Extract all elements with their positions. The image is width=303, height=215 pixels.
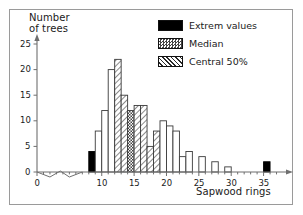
histogram-bar (166, 126, 172, 172)
x-tick-label: 20 (161, 178, 172, 188)
histogram-bar (95, 131, 101, 172)
histogram-bar (89, 152, 95, 172)
histogram-bar (212, 162, 218, 172)
histogram-bar (179, 157, 185, 172)
legend-swatch-median (158, 38, 183, 49)
histogram-bar (225, 167, 231, 172)
histogram-bar (199, 157, 205, 172)
y-tick-label: 0 (25, 167, 30, 177)
histogram-bar (108, 70, 114, 172)
legend-label-median: Median (189, 38, 224, 49)
y-tick-label: 20 (20, 64, 31, 74)
legend-swatch-central (158, 56, 183, 67)
histogram-bar (173, 131, 179, 172)
x-tick-label: 30 (226, 178, 237, 188)
histogram-bar (134, 105, 140, 172)
histogram-bar (121, 95, 127, 172)
histogram-bar (160, 121, 166, 172)
histogram-bar (115, 59, 121, 172)
x-tick-label: 0 (34, 178, 39, 188)
y-tick-label: 15 (20, 90, 31, 100)
bars-layer (89, 59, 270, 172)
histogram-bar (102, 111, 108, 172)
y-axis-label: Number of trees (29, 12, 70, 34)
histogram-bar (154, 131, 160, 172)
histogram-bar (128, 111, 134, 172)
x-tick-label: 15 (129, 178, 140, 188)
y-tick-label: 10 (20, 115, 31, 125)
legend-swatch-extreme (158, 20, 183, 31)
x-tick-label: 10 (97, 178, 108, 188)
histogram-bar (141, 105, 147, 172)
x-tick-label: 25 (194, 178, 205, 188)
y-tick-label: 25 (20, 39, 31, 49)
histogram-bar (264, 162, 270, 172)
legend-label-central: Central 50% (189, 56, 248, 67)
x-tick-label: 35 (258, 178, 269, 188)
histogram-bar (147, 146, 153, 172)
histogram-bar (186, 152, 192, 172)
y-tick-label: 5 (25, 141, 30, 151)
legend-label-extreme: Extrem values (189, 20, 257, 31)
